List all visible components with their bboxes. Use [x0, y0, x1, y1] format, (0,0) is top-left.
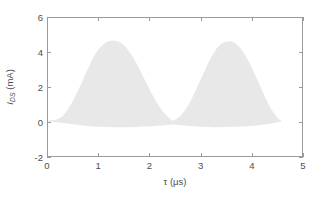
- y-tick-label-4: 4: [38, 47, 43, 58]
- y-tick-4: [47, 52, 51, 53]
- x-tick-label-3: 3: [198, 160, 203, 171]
- y-tick-6: [47, 17, 51, 18]
- chart-figure: 012345 -20246 τ (μs) IDS (mA): [0, 0, 321, 202]
- y-tick-2: [299, 87, 303, 88]
- plot-area: [47, 17, 303, 157]
- area-series-svg: [48, 18, 302, 156]
- y-axis-symbol: I: [4, 102, 15, 105]
- x-tick-4: [252, 17, 253, 21]
- y-tick-label-2: 2: [38, 82, 43, 93]
- y-tick-2: [47, 87, 51, 88]
- y-tick--2: [299, 157, 303, 158]
- x-tick-1: [98, 17, 99, 21]
- x-axis-label: τ (μs): [164, 176, 187, 187]
- y-tick-6: [299, 17, 303, 18]
- y-tick-label-6: 6: [38, 12, 43, 23]
- x-tick-label-2: 2: [147, 160, 152, 171]
- y-tick-label-0: 0: [38, 117, 43, 128]
- x-tick-label-1: 1: [96, 160, 101, 171]
- y-tick-4: [299, 52, 303, 53]
- x-axis-unit: (μs): [170, 176, 187, 187]
- x-tick-2: [149, 17, 150, 21]
- x-tick-1: [98, 153, 99, 157]
- x-tick-3: [201, 153, 202, 157]
- x-axis-symbol: τ: [164, 176, 168, 187]
- y-tick-0: [299, 122, 303, 123]
- y-tick--2: [47, 157, 51, 158]
- ids-area-path: [48, 40, 282, 127]
- x-tick-3: [201, 17, 202, 21]
- x-tick-5: [303, 17, 304, 21]
- x-tick-label-5: 5: [300, 160, 305, 171]
- y-tick-label--2: -2: [35, 152, 43, 163]
- x-tick-4: [252, 153, 253, 157]
- x-tick-label-0: 0: [44, 160, 49, 171]
- x-tick-5: [303, 153, 304, 157]
- x-tick-2: [149, 153, 150, 157]
- x-tick-label-4: 4: [249, 160, 254, 171]
- y-tick-0: [47, 122, 51, 123]
- y-axis-unit: (mA): [4, 69, 15, 92]
- y-axis-subscript: DS: [9, 92, 16, 102]
- y-axis-label: IDS (mA): [4, 69, 16, 105]
